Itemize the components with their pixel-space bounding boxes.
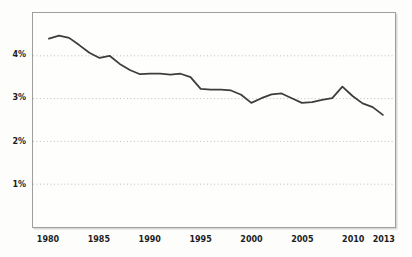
x-tick-label-2013: 2013: [367, 235, 401, 245]
plot-area: [32, 12, 396, 228]
x-tick-label-2005: 2005: [285, 235, 319, 245]
x-tick-label-2000: 2000: [234, 235, 268, 245]
plot-svg: [33, 13, 395, 227]
x-tick-label-1980: 1980: [31, 235, 65, 245]
x-tick-label-1990: 1990: [133, 235, 167, 245]
y-tick-label-1%: 1%: [0, 180, 26, 190]
x-tick-label-1995: 1995: [184, 235, 218, 245]
line-chart-figure: 4%3%2%1% 1980198519901995200020052010201…: [0, 0, 412, 257]
data-line-rate-percent: [49, 36, 383, 115]
y-tick-label-2%: 2%: [0, 137, 26, 147]
x-tick-label-2010: 2010: [336, 235, 370, 245]
y-tick-label-3%: 3%: [0, 93, 26, 103]
x-tick-label-1985: 1985: [82, 235, 116, 245]
y-tick-label-4%: 4%: [0, 50, 26, 60]
